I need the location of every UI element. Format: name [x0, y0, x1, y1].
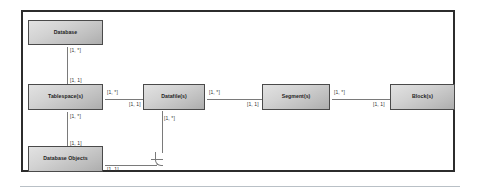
node-block[interactable]: Block(s): [390, 84, 455, 110]
connector-database-tablespace: [67, 47, 68, 86]
node-block-label: Block(s): [412, 94, 433, 99]
node-segment-label: Segment(s): [282, 94, 311, 99]
node-tablespace-label: Tablespace(s): [48, 94, 83, 99]
multiplicity-dbobjects-datafile-source: [1, 1]: [107, 167, 119, 172]
node-database-objects[interactable]: Database Objects: [28, 146, 103, 172]
multiplicity-segment-block-target: [1, 1]: [373, 102, 385, 107]
connector-dbobjects-datafile-corner: [155, 152, 163, 166]
multiplicity-segment-block-source: [1, *]: [334, 90, 345, 95]
page-divider-rule: [20, 186, 460, 187]
node-datafile-label: Datafile(s): [161, 94, 187, 99]
multiplicity-tablespace-datafile-source: [1, *]: [107, 90, 118, 95]
multiplicity-datafile-segment-source: [1, *]: [209, 90, 220, 95]
connector-tablespace-dbobjects: [67, 112, 68, 148]
multiplicity-tablespace-dbobjects-source: [1, *]: [70, 114, 81, 119]
node-database[interactable]: Database: [28, 20, 103, 45]
diagram-canvas: [1, *] [1, 1] [1, *] [1, 1] [1, *] [1, 1…: [0, 0, 478, 188]
connector-dbobjects-datafile-vertical: [162, 111, 163, 153]
multiplicity-dbobjects-datafile-target: [1, *]: [164, 116, 175, 121]
node-database-label: Database: [54, 30, 77, 35]
multiplicity-database-tablespace-source: [1, *]: [70, 48, 81, 53]
node-datafile[interactable]: Datafile(s): [143, 84, 205, 110]
connector-tablespace-datafile: [105, 99, 145, 100]
node-database-objects-label: Database Objects: [43, 156, 87, 161]
connector-segment-block: [332, 99, 392, 100]
multiplicity-datafile-segment-target: [1, 1]: [247, 102, 259, 107]
node-segment[interactable]: Segment(s): [262, 84, 330, 110]
multiplicity-tablespace-datafile-target: [1, 1]: [129, 102, 141, 107]
multiplicity-database-tablespace-target: [1, 1]: [70, 78, 82, 83]
connector-datafile-segment: [207, 99, 264, 100]
multiplicity-tablespace-dbobjects-target: [1, 1]: [70, 141, 82, 146]
node-tablespace[interactable]: Tablespace(s): [28, 84, 103, 110]
